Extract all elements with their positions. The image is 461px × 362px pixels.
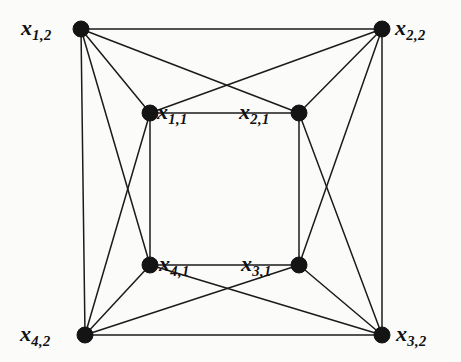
node-label-subscript-x41: 4,1 (170, 263, 190, 279)
node-label-base-x42: x (20, 321, 31, 346)
node-label-base-x31: x (241, 251, 252, 276)
node-label-subscript-x32: 3,2 (407, 333, 427, 349)
node-label-subscript-x12: 1,2 (32, 27, 52, 43)
node-label-base-x11: x (157, 99, 168, 124)
node-label-base-x22: x (395, 15, 406, 40)
graph-node-x11[interactable] (142, 105, 158, 121)
node-label-base-x12: x (21, 15, 32, 40)
edge-x22-x21 (299, 29, 382, 113)
node-label-x41: x4,1 (159, 253, 190, 278)
node-label-subscript-x31: 3,1 (252, 263, 272, 279)
graph-figure: x1,2x2,2x1,1x2,1x4,1x3,1x4,2x3,2 (0, 0, 461, 362)
graph-node-x42[interactable] (77, 327, 93, 343)
node-label-x12: x1,2 (21, 17, 52, 42)
node-label-x32: x3,2 (396, 323, 427, 348)
node-label-x11: x1,1 (157, 101, 188, 126)
node-label-base-x32: x (396, 321, 407, 346)
node-label-x42: x4,2 (20, 323, 51, 348)
edge-x42-x12 (81, 29, 85, 335)
edge-x42-x11 (85, 113, 150, 335)
graph-canvas (0, 0, 461, 362)
node-label-x22: x2,2 (395, 17, 426, 42)
node-label-subscript-x21: 2,1 (250, 111, 270, 127)
node-label-x31: x3,1 (241, 253, 272, 278)
graph-node-x31[interactable] (291, 257, 307, 273)
node-label-subscript-x11: 1,1 (168, 111, 188, 127)
graph-node-x21[interactable] (291, 105, 307, 121)
node-label-subscript-x42: 4,2 (31, 333, 51, 349)
node-label-base-x41: x (159, 251, 170, 276)
graph-node-x32[interactable] (374, 327, 390, 343)
graph-node-x12[interactable] (73, 21, 89, 37)
node-label-base-x21: x (239, 99, 250, 124)
graph-node-x41[interactable] (142, 257, 158, 273)
graph-node-x22[interactable] (374, 21, 390, 37)
edge-layer (81, 29, 382, 335)
node-label-x21: x2,1 (239, 101, 270, 126)
node-label-subscript-x22: 2,2 (406, 27, 426, 43)
